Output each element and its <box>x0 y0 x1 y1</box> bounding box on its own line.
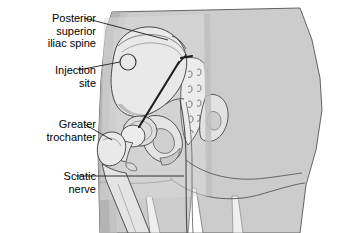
label-injection-line-1: Injection <box>4 64 96 77</box>
label-greater-trochanter-line-1: Greater <box>4 118 96 131</box>
label-sciatic-nerve: Sciatic nerve <box>4 170 96 195</box>
label-psis-line-1: Posterior <box>4 12 96 25</box>
label-posterior-superior-iliac-spine: Posterior superior iliac spine <box>4 12 96 50</box>
label-sciatic-nerve-line-2: nerve <box>4 183 96 196</box>
label-greater-trochanter-line-2: trochanter <box>4 131 96 144</box>
label-sciatic-nerve-line-1: Sciatic <box>4 170 96 183</box>
label-greater-trochanter: Greater trochanter <box>4 118 96 143</box>
label-injection-line-2: site <box>4 77 96 90</box>
label-psis-line-3: iliac spine <box>4 37 96 50</box>
label-psis-line-2: superior <box>4 25 96 38</box>
anatomy-figure: Posterior superior iliac spine Injection… <box>0 0 345 233</box>
label-injection-site: Injection site <box>4 64 96 89</box>
